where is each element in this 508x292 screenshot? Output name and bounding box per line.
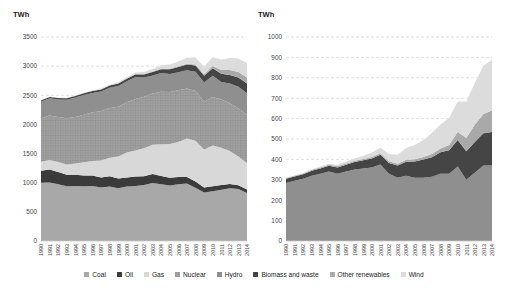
legend-item-nuclear: Nuclear [175, 271, 206, 278]
x-tick-label: 1996 [90, 244, 96, 256]
y-tick-label: 400 [271, 156, 282, 163]
x-tick-label: 2005 [167, 244, 173, 256]
legend-item-coal: Coal [84, 271, 106, 278]
x-tick-label: 1992 [55, 244, 61, 256]
x-tick-label: 2013 [481, 244, 487, 256]
y-tick-label: 500 [271, 135, 282, 142]
legend-swatch-nuclear [175, 272, 180, 277]
y-tick-label: 600 [271, 115, 282, 122]
legend-item-oil: Oil [117, 271, 133, 278]
x-tick-label: 1996 [335, 244, 341, 256]
legend-label: Coal [92, 271, 106, 278]
x-tick-label: 1992 [300, 244, 306, 256]
legend-swatch-biomass-and-waste [253, 272, 258, 277]
y-tick-label: 2000 [23, 121, 38, 128]
x-tick-label: 1995 [326, 244, 332, 256]
x-tick-label: 2001 [133, 244, 139, 256]
x-tick-label: 1990 [283, 244, 289, 256]
x-tick-label: 2010 [455, 244, 461, 256]
x-tick-label: 2003 [150, 244, 156, 256]
y-tick-label: 500 [26, 208, 37, 215]
x-tick-label: 2000 [124, 244, 130, 256]
x-tick-label: 2002 [141, 244, 147, 256]
x-tick-label: 1999 [361, 244, 367, 256]
legend-label: Other renewables [338, 271, 390, 278]
x-tick-label: 2010 [210, 244, 216, 256]
x-tick-label: 2000 [369, 244, 375, 256]
legend-swatch-hydro [217, 272, 222, 277]
y-tick-label: 0 [33, 237, 37, 244]
x-tick-label: 2007 [429, 244, 435, 256]
y-tick-label: 1000 [268, 33, 283, 40]
y-tick-label: 3000 [23, 62, 38, 69]
legend-label: Oil [125, 271, 133, 278]
electricity-generation-figure: TWh TWh 05001000150020002500300035001990… [0, 0, 508, 292]
x-tick-label: 1995 [81, 244, 87, 256]
x-tick-label: 2004 [403, 244, 409, 256]
area-coal [41, 182, 247, 241]
x-tick-label: 2012 [227, 244, 233, 256]
legend-label: Wind [409, 271, 424, 278]
x-tick-label: 1990 [38, 244, 44, 256]
x-tick-label: 2013 [236, 244, 242, 256]
legend-swatch-coal [84, 272, 89, 277]
x-tick-label: 2008 [438, 244, 444, 256]
x-tick-label: 1999 [116, 244, 122, 256]
legend-label: Nuclear [183, 271, 206, 278]
x-tick-label: 2009 [201, 244, 207, 256]
y-tick-label: 1500 [23, 150, 38, 157]
y-tick-label: 200 [271, 197, 282, 204]
x-tick-label: 1993 [64, 244, 70, 256]
x-tick-label: 1991 [292, 244, 298, 256]
y-tick-label: 800 [271, 74, 282, 81]
legend: CoalOilGasNuclearHydroBiomass and wasteO… [0, 267, 508, 281]
legend-item-hydro: Hydro [217, 271, 243, 278]
x-tick-label: 1997 [343, 244, 349, 256]
y-tick-label: 3500 [23, 33, 38, 40]
y-tick-label: 300 [271, 176, 282, 183]
x-tick-label: 1994 [318, 244, 324, 256]
x-tick-label: 1998 [107, 244, 113, 256]
y-tick-label: 700 [271, 95, 282, 102]
legend-item-other-renewables: Other renewables [330, 271, 390, 278]
x-tick-label: 2007 [184, 244, 190, 256]
y-tick-label: 900 [271, 54, 282, 61]
y-tick-label: 2500 [23, 92, 38, 99]
x-tick-label: 2014 [489, 244, 495, 256]
legend-label: Biomass and waste [261, 271, 318, 278]
legend-swatch-oil [117, 272, 122, 277]
x-tick-label: 2006 [176, 244, 182, 256]
x-tick-label: 2003 [395, 244, 401, 256]
y-tick-label: 0 [278, 237, 282, 244]
legend-swatch-wind [401, 272, 406, 277]
x-tick-label: 1991 [47, 244, 53, 256]
legend-swatch-gas [144, 272, 149, 277]
legend-label: Gas [152, 271, 164, 278]
x-tick-label: 2002 [386, 244, 392, 256]
x-tick-label: 1993 [309, 244, 315, 256]
x-tick-label: 2009 [446, 244, 452, 256]
charts-canvas: 0500100015002000250030003500199019911992… [0, 0, 508, 262]
x-tick-label: 2012 [472, 244, 478, 256]
x-tick-label: 2008 [193, 244, 199, 256]
x-tick-label: 2011 [464, 244, 470, 256]
legend-item-gas: Gas [144, 271, 164, 278]
x-tick-label: 2004 [158, 244, 164, 256]
x-tick-label: 2011 [219, 244, 225, 256]
legend-item-biomass-and-waste: Biomass and waste [253, 271, 318, 278]
x-tick-label: 2014 [244, 244, 250, 256]
legend-item-wind: Wind [401, 271, 424, 278]
x-tick-label: 1998 [352, 244, 358, 256]
area-hydro [286, 165, 492, 242]
legend-swatch-other-renewables [330, 272, 335, 277]
x-tick-label: 2005 [412, 244, 418, 256]
legend-label: Hydro [225, 271, 243, 278]
x-tick-label: 1997 [98, 244, 104, 256]
y-tick-label: 100 [271, 217, 282, 224]
x-tick-label: 1994 [73, 244, 79, 256]
x-tick-label: 2001 [378, 244, 384, 256]
x-tick-label: 2006 [421, 244, 427, 256]
y-tick-label: 1000 [23, 179, 38, 186]
